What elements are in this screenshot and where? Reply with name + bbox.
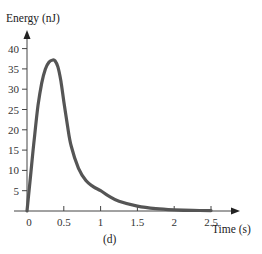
- x-tick-label: 2: [171, 216, 177, 228]
- x-tick-label: 0.5: [57, 216, 71, 228]
- energy-curve: [27, 60, 211, 211]
- x-tick-label: 0: [26, 216, 32, 228]
- axes: [14, 30, 240, 215]
- energy-time-chart: 51015202530354000.511.522.5 Energy (nJ) …: [0, 0, 262, 254]
- y-axis-arrow-icon: [24, 30, 31, 39]
- y-tick-label: 25: [8, 104, 20, 116]
- x-axis-arrow-icon: [231, 208, 240, 215]
- x-tick-label: 1: [98, 216, 104, 228]
- x-tick-label: 1.5: [131, 216, 145, 228]
- y-tick-label: 10: [8, 164, 20, 176]
- y-tick-label: 15: [8, 144, 20, 156]
- y-tick-label: 5: [14, 185, 20, 197]
- y-tick-label: 40: [8, 43, 20, 55]
- x-axis-title: Time (s): [212, 223, 251, 236]
- y-tick-label: 35: [8, 63, 20, 75]
- y-tick-label: 30: [8, 83, 20, 95]
- y-tick-label: 20: [8, 124, 20, 136]
- y-axis-title: Energy (nJ): [6, 12, 60, 25]
- figure-caption: (d): [103, 233, 117, 246]
